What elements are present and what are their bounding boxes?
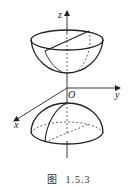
z-axis-label: z (57, 9, 62, 20)
origin-label: O (68, 89, 75, 100)
figure-diagram: z y O x (0, 0, 137, 170)
caption-prefix: 图 (47, 174, 58, 185)
caption-number: 1.5.3 (66, 174, 91, 185)
figure-caption: 图1.5.3 (0, 171, 137, 186)
x-axis (14, 88, 67, 121)
y-axis-label: y (114, 89, 120, 100)
x-axis-label: x (13, 119, 19, 130)
